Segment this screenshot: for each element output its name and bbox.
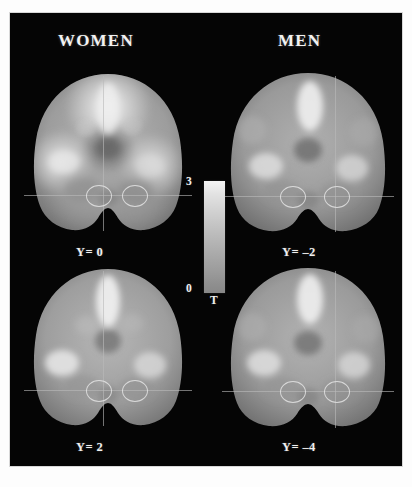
slice-label-men-y-4: Y= –4	[282, 440, 316, 455]
caption-partial-text	[162, 474, 165, 484]
brain-slice-women-y0	[24, 70, 192, 235]
roi-marker-left-men-y-2	[280, 186, 306, 208]
brain-slice-men-y-4	[222, 265, 394, 430]
crosshair-vertical-men-y-2	[335, 76, 336, 232]
imaging-panel: WOMEN MEN	[10, 13, 402, 466]
crosshair-horizontal-men-y-4	[222, 391, 394, 392]
roi-marker-right-men-y-4	[324, 381, 350, 403]
crosshair-vertical-women-y2	[103, 271, 104, 426]
colorbar-max-label: 3	[186, 175, 192, 187]
brain-slice-women-y2	[24, 265, 192, 430]
roi-marker-right-women-y2	[122, 380, 148, 402]
roi-marker-left-men-y-4	[280, 381, 306, 403]
brain-image-women-y0	[24, 70, 192, 235]
slice-label-men-y-2: Y= –2	[282, 245, 316, 260]
colorbar-gradient	[204, 181, 225, 293]
figure-root: WOMEN MEN	[0, 0, 412, 487]
colorbar-unit-label: T	[210, 294, 218, 306]
slice-label-women-y0: Y= 0	[76, 245, 103, 260]
slice-label-women-y2: Y= 2	[76, 440, 103, 455]
brain-image-men-y-2	[222, 70, 394, 235]
brain-slice-men-y-2	[222, 70, 394, 235]
roi-marker-left-women-y2	[86, 380, 112, 402]
crosshair-vertical-men-y-4	[335, 271, 336, 428]
roi-marker-right-women-y0	[122, 185, 148, 207]
colorbar-group: 3 0 T	[186, 181, 234, 311]
roi-marker-right-men-y-2	[324, 186, 350, 208]
crosshair-vertical-women-y0	[103, 76, 104, 231]
brain-image-men-y-4	[222, 265, 394, 430]
roi-marker-left-women-y0	[86, 185, 112, 207]
group-title-men: MEN	[278, 31, 321, 51]
crosshair-horizontal-men-y-2	[222, 196, 394, 197]
colorbar-min-label: 0	[186, 282, 192, 294]
brain-image-women-y2	[24, 265, 192, 430]
caption-strip	[12, 474, 400, 487]
group-title-women: WOMEN	[58, 31, 134, 51]
